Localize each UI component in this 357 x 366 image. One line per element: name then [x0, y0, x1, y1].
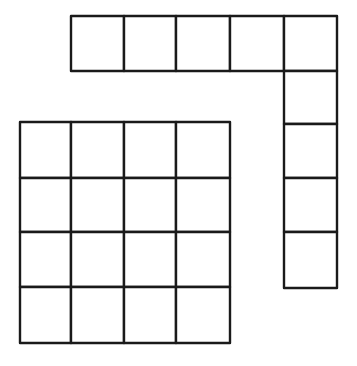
grid-cell — [20, 122, 71, 178]
grid-cell — [124, 232, 176, 287]
right-strip-cell — [284, 71, 337, 124]
grid-cell — [124, 122, 176, 178]
right-strip-cell — [284, 232, 337, 288]
grid-cell — [71, 232, 124, 287]
grid-cell — [20, 178, 71, 232]
top-strip-cell — [71, 16, 124, 71]
right-strip-cell — [284, 178, 337, 232]
diagram-canvas — [0, 0, 357, 366]
top-strip-cell — [230, 16, 284, 71]
top-strip-cell — [124, 16, 176, 71]
grid-cell — [124, 287, 176, 343]
grid-cell — [124, 178, 176, 232]
grid-cell — [71, 287, 124, 343]
grid-cell — [20, 287, 71, 343]
grid-cell — [176, 232, 230, 287]
grid-cell — [176, 122, 230, 178]
top-strip-cell — [284, 16, 337, 71]
grid-cell — [71, 178, 124, 232]
square-grid-4x4 — [20, 122, 230, 343]
grid-cell — [176, 178, 230, 232]
grid-cell — [176, 287, 230, 343]
grid-cell — [71, 122, 124, 178]
top-strip-cell — [176, 16, 230, 71]
grid-cell — [20, 232, 71, 287]
right-strip-cell — [284, 124, 337, 178]
